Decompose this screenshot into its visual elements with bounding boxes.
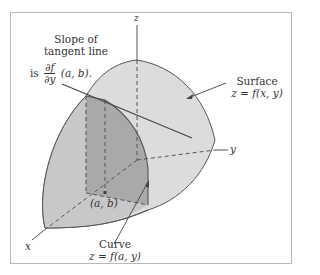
surface-line1: Surface bbox=[222, 75, 292, 87]
point-a-b-label: (a, b) bbox=[90, 197, 118, 209]
curve-annotation: Curve z = f(a, y) bbox=[80, 238, 150, 262]
curve-line2: z = f(a, y) bbox=[80, 250, 150, 262]
slope-prefix: is bbox=[30, 67, 39, 79]
y-axis-label: y bbox=[230, 143, 236, 155]
partial-derivative: ∂f ∂y bbox=[44, 62, 55, 86]
slope-suffix: (a, b). bbox=[61, 67, 92, 79]
slope-line2: tangent line bbox=[36, 45, 116, 57]
curve-line1: Curve bbox=[80, 238, 150, 250]
surface-leader bbox=[188, 83, 226, 98]
surface-line2: z = f(x, y) bbox=[222, 87, 292, 99]
surface-annotation: Surface z = f(x, y) bbox=[222, 75, 292, 99]
slope-formula: is ∂f ∂y (a, b). bbox=[30, 62, 92, 86]
slope-annotation: Slope of tangent line bbox=[36, 33, 116, 57]
slope-line1: Slope of bbox=[36, 33, 116, 45]
point-a-b-marker bbox=[104, 191, 107, 194]
frac-denominator: ∂y bbox=[44, 74, 55, 86]
x-axis-label: x bbox=[25, 240, 31, 252]
z-axis-label: z bbox=[134, 13, 139, 23]
